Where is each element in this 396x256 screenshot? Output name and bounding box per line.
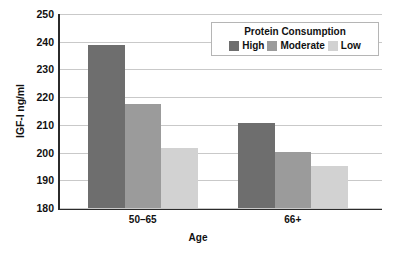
legend-item: Moderate	[267, 40, 324, 51]
legend-swatch-icon	[229, 41, 239, 51]
y-tick-label: 250	[14, 9, 54, 20]
y-tick-label: 190	[14, 175, 54, 186]
legend-item: High	[229, 40, 264, 51]
y-axis-title: IGF-I ng/ml	[14, 41, 26, 181]
y-tick-label: 240	[14, 37, 54, 48]
legend-title: Protein Consumption	[216, 26, 374, 37]
legend-item: Low	[328, 40, 361, 51]
legend-swatch-icon	[267, 41, 277, 51]
bar	[275, 152, 312, 208]
bar	[161, 148, 198, 208]
x-tick-label: 50–65	[103, 214, 183, 225]
legend-items: HighModerateLow	[216, 40, 374, 51]
y-tick-label: 220	[14, 92, 54, 103]
legend: Protein Consumption HighModerateLow	[211, 22, 379, 56]
bar	[238, 123, 275, 208]
bar-chart: IGF-I ng/ml 180190200210220230240250 50–…	[0, 0, 396, 256]
gridline	[60, 208, 382, 209]
bar	[311, 166, 348, 208]
legend-label: Low	[341, 40, 361, 51]
y-tick-label: 230	[14, 64, 54, 75]
gridline	[60, 14, 382, 15]
x-axis-title: Age	[0, 232, 396, 243]
legend-label: High	[242, 40, 264, 51]
bar	[125, 104, 162, 208]
y-tick-label: 200	[14, 148, 54, 159]
legend-swatch-icon	[328, 41, 338, 51]
y-tick-label: 180	[14, 203, 54, 214]
legend-label: Moderate	[280, 40, 324, 51]
bar	[88, 45, 125, 208]
x-tick-label: 66+	[253, 214, 333, 225]
y-tick-label: 210	[14, 120, 54, 131]
